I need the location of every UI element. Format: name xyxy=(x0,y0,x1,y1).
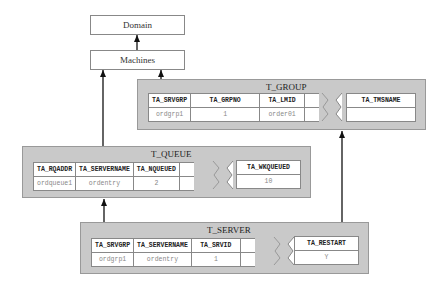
t-server-title: T_SERVER xyxy=(207,225,251,235)
value-cell: ordgrp1 xyxy=(149,108,191,122)
domain-box: Domain xyxy=(90,15,185,35)
break-cell xyxy=(240,253,255,267)
table-break-icon xyxy=(320,92,348,122)
header-cell: TA_SRVID xyxy=(191,239,240,253)
value-cell: 2 xyxy=(133,177,179,191)
break-cell xyxy=(305,94,320,108)
t-queue-panel: T_QUEUE TA_RQADDR TA_SERVERNAME TA_NQUEU… xyxy=(22,146,311,198)
break-cell xyxy=(179,177,194,191)
break-cell xyxy=(305,108,320,122)
value-cell: 10 xyxy=(237,175,301,189)
value-cell: ordentry xyxy=(134,253,192,267)
domain-label: Domain xyxy=(123,20,152,30)
machines-label: Machines xyxy=(120,55,155,65)
header-cell: TA_SERVERNAME xyxy=(76,163,134,177)
header-cell: TA_NQUEUED xyxy=(133,163,179,177)
header-cell: TA_SRVGRP xyxy=(92,239,134,253)
value-cell: ordentry xyxy=(76,177,134,191)
header-cell: TA_LMID xyxy=(260,94,305,108)
header-cell: TA_WKQUEUED xyxy=(237,161,301,175)
header-cell: TA_RQADDR xyxy=(34,163,76,177)
header-cell: TA_TMSNAME xyxy=(347,94,416,108)
t-queue-extra-table: TA_WKQUEUED 10 xyxy=(236,160,301,189)
value-cell: 1 xyxy=(191,253,240,267)
table-break-icon xyxy=(211,160,239,190)
machines-box: Machines xyxy=(90,50,185,70)
t-queue-title: T_QUEUE xyxy=(151,149,192,159)
header-cell: TA_SRVGRP xyxy=(149,94,191,108)
value-cell: Y xyxy=(295,251,359,265)
header-cell: TA_GRPNO xyxy=(191,94,260,108)
t-group-title: T_GROUP xyxy=(266,82,307,92)
t-group-extra-table: TA_TMSNAME xyxy=(346,93,416,122)
value-cell: 1 xyxy=(191,108,260,122)
break-cell xyxy=(179,163,194,177)
t-queue-table: TA_RQADDR TA_SERVERNAME TA_NQUEUED ordqu… xyxy=(33,162,194,191)
value-cell xyxy=(347,108,416,122)
header-cell: TA_SERVERNAME xyxy=(134,239,192,253)
value-cell: order01 xyxy=(260,108,305,122)
t-group-table: TA_SRVGRP TA_GRPNO TA_LMID ordgrp1 1 ord… xyxy=(148,93,319,122)
t-server-table: TA_SRVGRP TA_SERVERNAME TA_SRVID ordgrp1… xyxy=(91,238,255,267)
value-cell: ordgrp1 xyxy=(92,253,134,267)
header-cell: TA_RESTART xyxy=(295,237,359,251)
t-group-panel: T_GROUP TA_SRVGRP TA_GRPNO TA_LMID ordgr… xyxy=(137,79,426,130)
t-server-extra-table: TA_RESTART Y xyxy=(294,236,359,265)
t-server-panel: T_SERVER TA_SRVGRP TA_SERVERNAME TA_SRVI… xyxy=(80,222,369,274)
break-cell xyxy=(240,239,255,253)
value-cell: ordqueue1 xyxy=(34,177,76,191)
